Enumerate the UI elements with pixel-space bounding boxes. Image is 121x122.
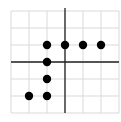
- scatter-plot: [0, 0, 121, 122]
- data-point: [79, 41, 87, 49]
- data-point: [43, 92, 51, 100]
- data-point: [61, 41, 69, 49]
- data-point: [43, 41, 51, 49]
- data-point: [43, 58, 51, 66]
- data-point: [97, 41, 105, 49]
- data-point: [25, 92, 33, 100]
- data-point: [43, 75, 51, 83]
